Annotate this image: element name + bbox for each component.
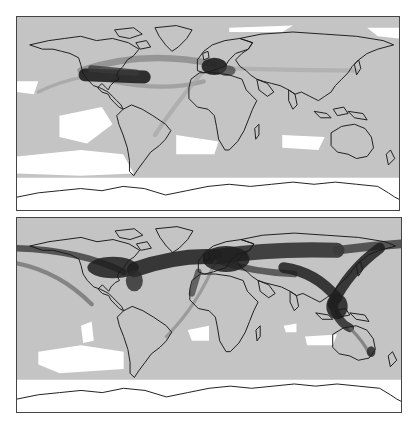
map-panel-top xyxy=(16,16,400,211)
world-map-bottom xyxy=(17,218,401,412)
world-map-top xyxy=(17,17,399,210)
no-data-regions xyxy=(17,321,401,412)
map-panel-bottom xyxy=(16,217,402,413)
